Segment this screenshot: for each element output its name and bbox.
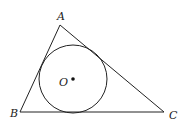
triangle-abc: [20, 25, 164, 112]
vertex-label-b: B: [9, 107, 18, 120]
vertex-label-a: A: [56, 10, 65, 23]
center-label-o: O: [59, 76, 68, 89]
center-point-o: [71, 77, 75, 81]
geometry-diagram: A B C O: [0, 0, 187, 133]
vertex-label-c: C: [169, 109, 178, 122]
